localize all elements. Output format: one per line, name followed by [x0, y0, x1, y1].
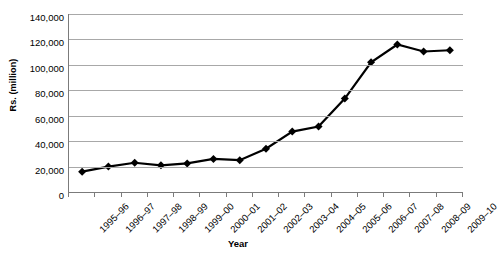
data-point-marker — [236, 156, 244, 164]
gridline — [69, 39, 463, 40]
y-axis-tick-label: 60,000 — [12, 115, 64, 125]
y-axis-tick-label: 20,000 — [12, 166, 64, 176]
data-point-marker — [131, 159, 139, 167]
y-axis-tick-label: 120,000 — [12, 38, 64, 48]
chart-title-clipped — [26, 0, 266, 2]
y-axis-tick-labels: 140,000120,000100,00080,00060,00040,0002… — [12, 8, 64, 198]
y-axis-tick-label: 140,000 — [12, 13, 64, 23]
gridline — [69, 14, 463, 15]
series-line-group — [69, 14, 463, 192]
data-point-marker — [209, 155, 217, 163]
gridline — [69, 167, 463, 168]
gridline — [69, 90, 463, 91]
gridline — [69, 141, 463, 142]
x-axis-title: Year — [0, 238, 476, 249]
data-point-marker — [446, 46, 454, 54]
gridline — [69, 65, 463, 66]
plot-area — [68, 14, 463, 193]
y-axis-tick-label: 40,000 — [12, 140, 64, 150]
data-point-marker — [420, 48, 428, 56]
y-axis-tick-label: 100,000 — [12, 64, 64, 74]
data-point-marker — [157, 161, 165, 169]
gridline — [69, 116, 463, 117]
data-point-marker — [78, 168, 86, 176]
y-axis-tick-label: 80,000 — [12, 89, 64, 99]
x-axis-tick-labels: 1995–961996–971997–981998–991999–002000–… — [0, 197, 476, 241]
